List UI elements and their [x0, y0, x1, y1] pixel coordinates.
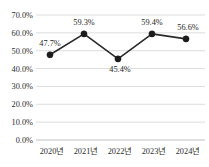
x-tick-label: 2020년 [40, 146, 65, 156]
data-point-marker [81, 31, 87, 37]
y-tick-label: 20.0% [12, 100, 34, 109]
y-axis-labels: 70.0% 60.0% 50.0% 40.0% 30.0% 20.0% 10.0… [12, 11, 34, 145]
y-tick-label: 70.0% [12, 11, 34, 20]
x-tick-label: 2024년 [176, 146, 201, 156]
y-tick-label: 10.0% [12, 118, 34, 127]
y-tick-label: 60.0% [12, 29, 34, 38]
x-tick-label: 2022년 [108, 146, 133, 156]
chart-canvas: 70.0% 60.0% 50.0% 40.0% 30.0% 20.0% 10.0… [0, 0, 209, 167]
series-line [50, 34, 186, 59]
data-point-marker [47, 52, 53, 58]
data-label: 47.7% [39, 39, 61, 48]
data-point-marker [115, 56, 121, 62]
y-tick-label: 50.0% [12, 47, 34, 56]
data-label: 59.3% [73, 18, 95, 27]
line-chart: 70.0% 60.0% 50.0% 40.0% 30.0% 20.0% 10.0… [0, 0, 209, 167]
data-point-marker [149, 31, 155, 37]
data-label: 45.4% [109, 65, 131, 74]
y-tick-label: 30.0% [12, 82, 34, 91]
data-point-marker [183, 36, 189, 42]
x-axis-labels: 2020년 2021년 2022년 2023년 2024년 [40, 146, 201, 156]
data-label: 59.4% [141, 18, 163, 27]
x-tick-label: 2023년 [142, 146, 167, 156]
x-tick-label: 2021년 [74, 146, 99, 156]
y-tick-label: 0.0% [16, 136, 33, 145]
y-tick-label: 40.0% [12, 65, 34, 74]
data-label: 56.6% [177, 23, 199, 32]
